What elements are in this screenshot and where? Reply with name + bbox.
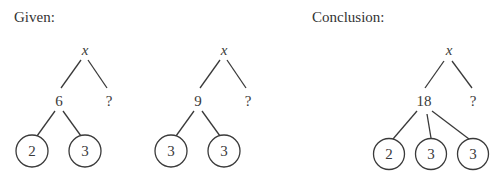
tree-unknown-node: ? [106, 93, 113, 109]
tree-root: x [81, 42, 89, 58]
tree-edge [88, 60, 107, 88]
leaf-value: 3 [81, 143, 89, 159]
tree-edge [427, 114, 431, 138]
factor-tree-given-2: x 9 ? 3 3 [155, 42, 252, 167]
tree-node: 6 [55, 93, 63, 109]
leaf-value: 3 [427, 146, 435, 162]
leaf-value: 2 [385, 146, 393, 162]
tree-edge [425, 61, 444, 88]
leaf-value: 3 [167, 143, 175, 159]
tree-node: 18 [417, 93, 432, 109]
factor-tree-given-1: x 6 ? 2 3 [16, 42, 113, 167]
tree-edge [176, 111, 194, 136]
tree-edge [202, 111, 220, 136]
tree-unknown-node: ? [470, 93, 477, 109]
tree-root: x [220, 42, 228, 58]
tree-edge [63, 111, 81, 136]
leaf-value: 2 [28, 143, 36, 159]
tree-root: x [445, 42, 453, 58]
tree-unknown-node: ? [245, 93, 252, 109]
tree-edge [37, 111, 55, 136]
tree-node: 9 [194, 93, 202, 109]
leaf-value: 3 [220, 143, 228, 159]
tree-edge [227, 60, 246, 88]
factor-trees-diagram: x 6 ? 2 3 x 9 ? 3 3 x 18 ? 2 [0, 0, 500, 175]
factor-tree-conclusion: x 18 ? 2 3 3 [374, 42, 489, 170]
tree-edge [393, 111, 417, 139]
tree-edge [452, 61, 472, 88]
tree-edge [200, 60, 220, 88]
leaf-value: 3 [469, 146, 477, 162]
tree-edge [61, 60, 81, 88]
tree-edge [432, 111, 469, 139]
